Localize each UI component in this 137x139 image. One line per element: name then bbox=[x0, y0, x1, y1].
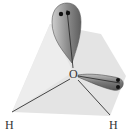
water-molecule-diagram: O H H bbox=[0, 0, 137, 139]
hydrogen-right-label: H bbox=[109, 118, 118, 132]
hydrogen-left-label: H bbox=[5, 118, 14, 132]
electron-dot bbox=[66, 11, 70, 15]
oxygen-label: O bbox=[69, 67, 78, 81]
electron-dot bbox=[116, 78, 120, 82]
electron-dot bbox=[116, 85, 120, 89]
electron-dot bbox=[59, 12, 63, 16]
